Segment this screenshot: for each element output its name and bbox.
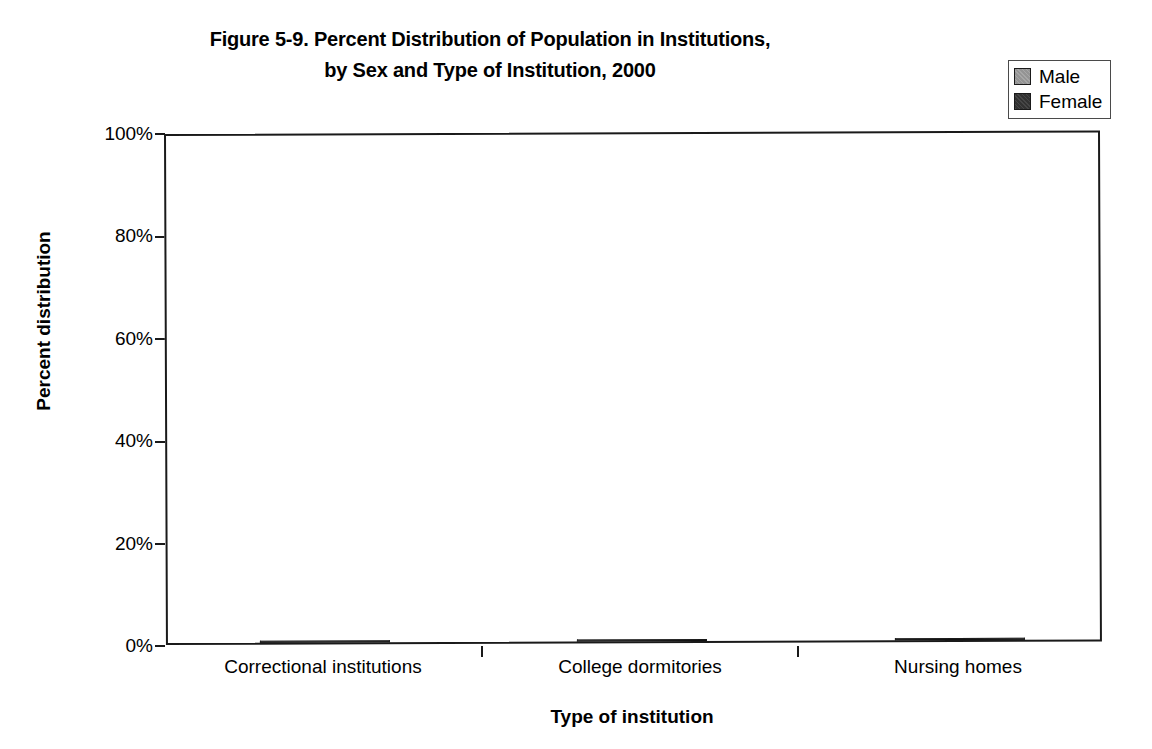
bar-correctional-institutions bbox=[260, 640, 390, 642]
legend-label-male: Male bbox=[1039, 67, 1080, 86]
y-tick-mark-60 bbox=[155, 338, 165, 340]
y-axis-title: Percent distribution bbox=[33, 181, 55, 461]
y-tick-label-60: 60% bbox=[95, 329, 153, 348]
x-tick-mark-2 bbox=[797, 646, 799, 657]
bar-segment-female-nursing-homes bbox=[895, 639, 1025, 640]
chart-title-line-1: Figure 5-9. Percent Distribution of Popu… bbox=[210, 28, 771, 50]
y-tick-label-0: 0% bbox=[95, 636, 153, 655]
legend-label-female: Female bbox=[1039, 92, 1102, 111]
bar-segment-female-correctional-institutions bbox=[260, 641, 390, 642]
chart-legend: Male Female bbox=[1008, 60, 1111, 119]
bar-college-dormitories bbox=[577, 639, 707, 641]
bar-nursing-homes bbox=[895, 638, 1025, 640]
legend-swatch-female-icon bbox=[1014, 93, 1031, 110]
y-tick-label-80: 80% bbox=[95, 226, 153, 245]
x-category-label-correctional-institutions: Correctional institutions bbox=[173, 656, 473, 678]
y-tick-label-20: 20% bbox=[95, 534, 153, 553]
y-tick-mark-20 bbox=[155, 543, 165, 545]
y-tick-mark-40 bbox=[155, 441, 165, 443]
y-tick-mark-0 bbox=[155, 645, 165, 647]
x-tick-mark-1 bbox=[481, 646, 483, 657]
legend-swatch-male-icon bbox=[1014, 68, 1031, 85]
y-tick-label-40: 40% bbox=[95, 431, 153, 450]
x-category-label-nursing-homes: Nursing homes bbox=[808, 656, 1108, 678]
chart-title-line-2: by Sex and Type of Institution, 2000 bbox=[0, 55, 980, 86]
x-category-label-college-dormitories: College dormitories bbox=[490, 656, 790, 678]
y-tick-label-100: 100% bbox=[95, 124, 153, 143]
x-axis-title: Type of institution bbox=[164, 706, 1100, 728]
plot-area bbox=[164, 130, 1102, 645]
bar-segment-female-college-dormitories bbox=[577, 640, 707, 641]
legend-item-male: Male bbox=[1014, 64, 1102, 89]
chart-title: Figure 5-9. Percent Distribution of Popu… bbox=[0, 24, 980, 86]
legend-item-female: Female bbox=[1014, 89, 1102, 114]
